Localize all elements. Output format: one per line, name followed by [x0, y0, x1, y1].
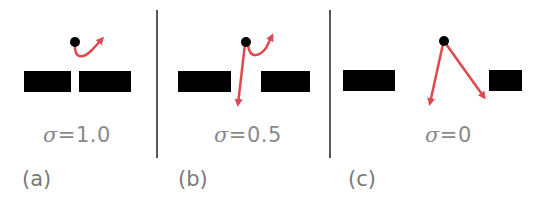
barrier-left [178, 71, 231, 92]
sigma-value: =0 [440, 123, 472, 147]
panel-c [343, 36, 522, 103]
reflected-arrow [248, 36, 272, 55]
sigma-value: =1.0 [58, 123, 111, 147]
barrier-left [343, 70, 395, 91]
barrier-left [24, 71, 71, 92]
transmitted-arrow-right [446, 44, 484, 97]
sigma-label-c: σ=0 [425, 123, 472, 147]
sigma-symbol: σ [43, 123, 58, 147]
sigma-symbol: σ [214, 123, 229, 147]
panel-label-c: (c) [348, 167, 376, 191]
transmitted-arrow [238, 44, 245, 104]
diagram-canvas [0, 0, 552, 206]
sigma-label-a: σ=1.0 [43, 123, 111, 147]
particle-dot [241, 37, 251, 47]
barrier-right [261, 71, 310, 92]
barrier-right [79, 71, 131, 92]
sigma-label-b: σ=0.5 [214, 123, 282, 147]
sigma-value: =0.5 [229, 123, 282, 147]
panel-label-a: (a) [22, 167, 51, 191]
particle-dot [439, 36, 449, 46]
particle-dot [70, 37, 80, 47]
panel-b [178, 36, 310, 104]
barrier-right [489, 70, 522, 91]
sigma-symbol: σ [425, 123, 440, 147]
panel-label-b: (b) [178, 167, 208, 191]
transmitted-arrow-left [430, 44, 443, 103]
panel-a [24, 37, 131, 92]
